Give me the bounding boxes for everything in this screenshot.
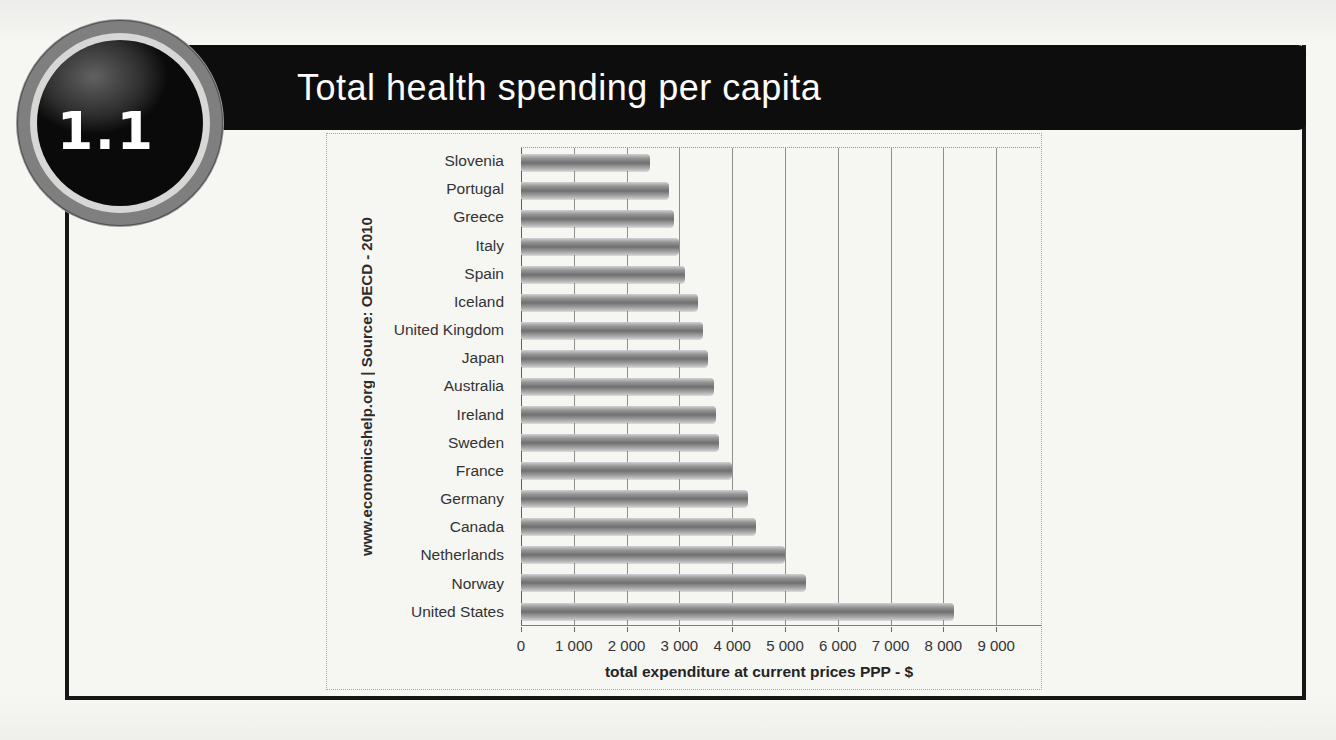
bar-row bbox=[521, 176, 1042, 204]
bar-france bbox=[521, 462, 732, 479]
category-label-greece: Greece bbox=[331, 203, 513, 231]
category-label-italy: Italy bbox=[331, 232, 513, 260]
bar-row bbox=[521, 485, 1042, 513]
category-label-netherlands: Netherlands bbox=[331, 541, 513, 569]
bar-norway bbox=[521, 574, 806, 591]
page-background: { "badge": { "label": "1.1" }, "header":… bbox=[0, 0, 1336, 740]
x-axis-tick bbox=[627, 627, 628, 632]
category-label-slovenia: Slovenia bbox=[331, 147, 513, 175]
x-axis-tick-label: 8 000 bbox=[925, 637, 963, 654]
category-label-united-kingdom: United Kingdom bbox=[331, 316, 513, 344]
x-axis-tick bbox=[996, 627, 997, 632]
plot-area: 01 0002 0003 0004 0005 0006 0007 0008 00… bbox=[521, 147, 1042, 626]
bar-row bbox=[521, 541, 1042, 569]
bar-slovenia bbox=[521, 154, 650, 171]
bar-row bbox=[521, 316, 1042, 344]
category-labels: SloveniaPortugalGreeceItalySpainIcelandU… bbox=[331, 147, 513, 626]
bar-canada bbox=[521, 518, 756, 535]
badge-number: 1.1 bbox=[57, 101, 155, 161]
x-axis-tick-label: 2 000 bbox=[608, 637, 646, 654]
x-axis-tick-label: 1 000 bbox=[555, 637, 593, 654]
bar-japan bbox=[521, 350, 708, 367]
bar-portugal bbox=[521, 182, 669, 199]
bar-united-states bbox=[521, 603, 954, 620]
bar-row bbox=[521, 457, 1042, 485]
bar-iceland bbox=[521, 294, 698, 311]
bar-ireland bbox=[521, 406, 716, 423]
x-axis-tick bbox=[891, 627, 892, 632]
x-axis-tick bbox=[838, 627, 839, 632]
category-label-australia: Australia bbox=[331, 372, 513, 400]
category-label-norway: Norway bbox=[331, 570, 513, 598]
x-axis-tick bbox=[943, 627, 944, 632]
x-axis-tick-label: 3 000 bbox=[661, 637, 699, 654]
category-label-portugal: Portugal bbox=[331, 175, 513, 203]
bar-row bbox=[521, 513, 1042, 541]
category-label-united-states: United States bbox=[331, 598, 513, 626]
bar-row bbox=[521, 232, 1042, 260]
x-axis-tick-label: 7 000 bbox=[872, 637, 910, 654]
bar-australia bbox=[521, 378, 714, 395]
category-label-ireland: Ireland bbox=[331, 401, 513, 429]
category-label-spain: Spain bbox=[331, 260, 513, 288]
x-axis-tick-label: 9 000 bbox=[977, 637, 1015, 654]
category-label-japan: Japan bbox=[331, 344, 513, 372]
badge-disc: 1.1 bbox=[37, 40, 203, 206]
bar-united-kingdom bbox=[521, 322, 703, 339]
category-label-germany: Germany bbox=[331, 485, 513, 513]
category-label-france: France bbox=[331, 457, 513, 485]
x-axis-tick bbox=[521, 627, 522, 632]
category-label-canada: Canada bbox=[331, 513, 513, 541]
x-axis-title: total expenditure at current prices PPP … bbox=[521, 663, 997, 681]
bar-spain bbox=[521, 266, 685, 283]
bars-container bbox=[521, 148, 1042, 625]
x-axis-tick-label: 4 000 bbox=[713, 637, 751, 654]
chart-area: www.economicshelp.org | Source: OECD - 2… bbox=[326, 133, 1042, 690]
bar-row bbox=[521, 344, 1042, 372]
bar-row bbox=[521, 401, 1042, 429]
category-label-iceland: Iceland bbox=[331, 288, 513, 316]
x-axis-tick bbox=[785, 627, 786, 632]
figure-badge: 1.1 bbox=[17, 20, 223, 226]
bar-germany bbox=[521, 490, 748, 507]
bar-row bbox=[521, 288, 1042, 316]
category-label-sweden: Sweden bbox=[331, 429, 513, 457]
x-axis-tick-label: 5 000 bbox=[766, 637, 804, 654]
bar-row bbox=[521, 429, 1042, 457]
bar-sweden bbox=[521, 434, 719, 451]
bar-netherlands bbox=[521, 546, 785, 563]
figure-header-bar: Total health spending per capita bbox=[65, 45, 1306, 130]
bar-row bbox=[521, 148, 1042, 176]
x-axis-tick-label: 0 bbox=[517, 637, 525, 654]
bar-row bbox=[521, 260, 1042, 288]
x-axis-tick bbox=[732, 627, 733, 632]
x-axis-tick bbox=[574, 627, 575, 632]
bar-row bbox=[521, 597, 1042, 625]
bar-italy bbox=[521, 238, 679, 255]
bar-row bbox=[521, 373, 1042, 401]
bar-row bbox=[521, 204, 1042, 232]
bar-greece bbox=[521, 210, 674, 227]
x-axis-tick bbox=[679, 627, 680, 632]
bar-row bbox=[521, 569, 1042, 597]
x-axis-tick-label: 6 000 bbox=[819, 637, 857, 654]
